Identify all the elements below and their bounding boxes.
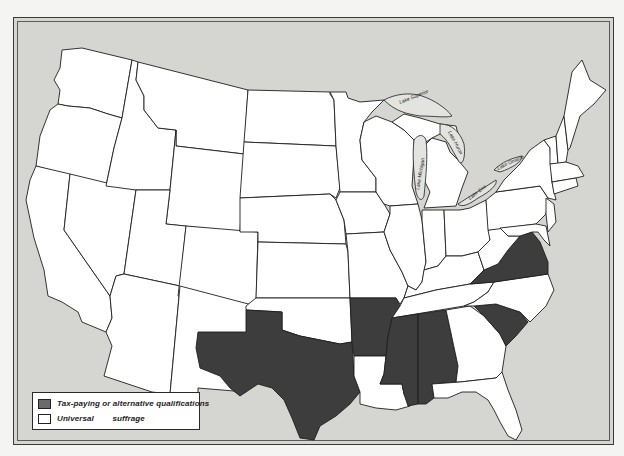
legend-swatch-universal [38,414,51,424]
legend-item-universal: Universal suffrage [38,411,194,426]
state-north-dakota [244,90,336,146]
legend-item-tax: Tax-paying or alternative qualifications [38,396,194,411]
state-pennsylvania [486,186,548,230]
legend-label-universal: Universal suffrage [57,414,145,423]
state-massachusetts [550,162,584,182]
state-new-jersey [546,198,556,232]
legend-label-tax: Tax-paying or alternative qualifications [57,399,209,408]
us-map: Lake Superior Lake Michigan Lake Huron L… [0,0,624,456]
state-maine [564,60,606,150]
map-legend: Tax-paying or alternative qualifications… [32,392,200,430]
legend-swatch-tax [38,399,51,409]
state-south-dakota [240,142,340,198]
state-kansas [256,242,350,298]
state-arizona [104,274,180,394]
